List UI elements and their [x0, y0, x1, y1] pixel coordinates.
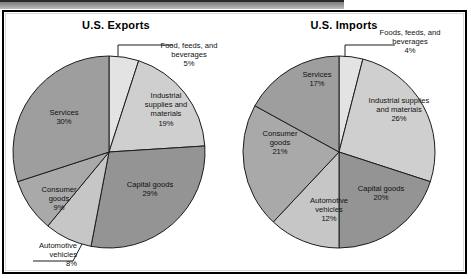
- slice-label-industrial-supplies-exports: Industrial supplies and materials 19%: [133, 91, 199, 128]
- slice-label-consumer-goods-exports: Consumer goods 9%: [29, 185, 89, 213]
- slice-label-automotive-vehicles-imports: Automotive vehicles 12%: [298, 196, 360, 224]
- slice-label-services-imports: Services 17%: [286, 70, 348, 88]
- slice-label-consumer-goods-imports: Consumer goods 21%: [249, 129, 311, 157]
- slice-label-automotive-vehicles-exports: Automotive vehicles 8%: [5, 241, 77, 269]
- slice-label-food-beverages-exports: Food, feeds, and beverages 5%: [143, 41, 235, 69]
- chart-panel-exports: U.S. Exports Food, feeds, and beverages …: [5, 13, 235, 271]
- figure-container: U.S. Exports Food, feeds, and beverages …: [0, 0, 471, 279]
- slice-label-industrial-supplies-imports: Industrial supplies and materials 26%: [352, 96, 446, 124]
- slice-label-services-exports: Services 30%: [33, 108, 95, 126]
- slice-label-capital-goods-exports: Capital goods 29%: [113, 180, 187, 198]
- top-bar-edge: [0, 0, 344, 2]
- slice-label-foods-beverages-imports: Foods, feeds, and beverages 4%: [362, 28, 458, 56]
